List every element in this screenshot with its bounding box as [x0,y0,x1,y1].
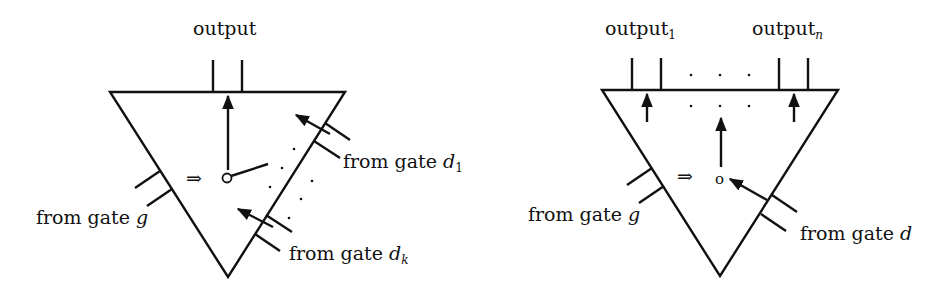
left-node-circle [223,174,232,183]
left-ellipsis-dots [269,148,314,220]
right-implies-symbol: ⇒ [677,165,693,187]
left-gate-dk-stub-2 [255,234,280,251]
left-gate-g-stub-1 [135,171,160,188]
right-node-symbol: o [715,170,724,188]
left-gate-d1-stub-2 [314,141,340,158]
right-gate-g-stub-1 [627,168,652,185]
left-gate-d1-stub-1 [325,123,350,140]
left-gate-dk-arrow [238,209,273,227]
left-gate-d1-label: from gate d1 [343,150,463,175]
left-gate-dk-label: from gate dk [289,242,408,267]
right-gate-d-label: from gate d [800,222,912,244]
left-output-label: output [193,17,257,39]
right-output-1-label: output1 [605,17,676,42]
right-gate-d-arrow [730,179,767,200]
left-implies-symbol: ⇒ [186,167,202,189]
left-gate-g-stub-2 [147,189,172,206]
right-output-n-label: outputn [752,17,823,42]
right-gate-g-stub-2 [639,186,664,203]
left-switch-lever [231,164,268,176]
left-gate-g-label: from gate g [36,206,148,228]
diagram-canvas: output ⇒ from gate g from gate d1 from g… [0,0,951,300]
right-gate-g-label: from gate g [528,203,640,225]
right-gate-d-stub-2 [761,214,786,231]
right-gate-d-stub-1 [772,195,797,212]
